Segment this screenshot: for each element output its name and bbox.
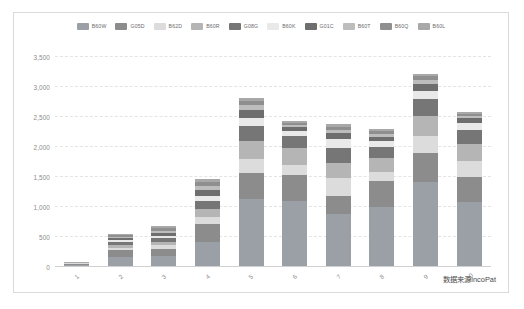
bar-segment-b60w[interactable] <box>151 256 176 266</box>
stacked-bar[interactable] <box>413 74 438 266</box>
stacked-bar[interactable] <box>64 262 89 266</box>
stacked-bar[interactable] <box>457 112 482 266</box>
legend-item-b62d[interactable]: B62D <box>154 23 183 30</box>
bar-segment-b62d[interactable] <box>413 136 438 153</box>
bar-segment-b60k[interactable] <box>413 91 438 99</box>
bar-segment-g05d[interactable] <box>457 177 482 202</box>
y-axis-tick-label: 3,500 <box>34 54 51 61</box>
bar-column: 3 <box>142 56 186 266</box>
bar-group: 12345678910 <box>55 56 491 266</box>
bar-segment-b60r[interactable] <box>413 116 438 136</box>
bar-segment-b60w[interactable] <box>108 257 133 266</box>
bar-segment-b60r[interactable] <box>282 148 307 165</box>
legend-item-b60k[interactable]: B60K <box>267 23 295 30</box>
stacked-bar[interactable] <box>282 121 307 266</box>
x-axis-tick-label: 8 <box>378 273 385 281</box>
legend-item-g05d[interactable]: G05D <box>115 23 144 30</box>
bar-segment-b60r[interactable] <box>195 209 220 217</box>
stacked-bar[interactable] <box>151 226 176 266</box>
legend-item-label: B62D <box>169 23 183 30</box>
bar-segment-b62d[interactable] <box>457 161 482 177</box>
legend-swatch-icon <box>229 23 241 30</box>
bar-segment-g01c[interactable] <box>413 84 438 91</box>
stacked-bar[interactable] <box>326 124 351 266</box>
bar-segment-g08g[interactable] <box>282 136 307 148</box>
legend-item-b60l[interactable]: B60L <box>418 23 446 30</box>
x-axis-tick-label: 4 <box>204 273 211 281</box>
bar-segment-g05d[interactable] <box>239 173 264 199</box>
legend-swatch-icon <box>305 23 317 30</box>
bar-segment-g08g[interactable] <box>413 99 438 116</box>
legend-swatch-icon <box>343 23 355 30</box>
legend-item-label: B60K <box>282 23 295 30</box>
bar-segment-b60w[interactable] <box>282 201 307 266</box>
bar-segment-b60k[interactable] <box>326 139 351 149</box>
bar-segment-g05d[interactable] <box>108 250 133 257</box>
stacked-bar[interactable] <box>195 179 220 266</box>
legend-item-label: B60L <box>433 23 446 30</box>
bar-segment-g05d[interactable] <box>369 181 394 207</box>
bar-segment-b62d[interactable] <box>239 159 264 173</box>
bar-column: 8 <box>360 56 404 266</box>
legend-swatch-icon <box>267 23 279 30</box>
bar-segment-b60w[interactable] <box>413 182 438 266</box>
source-annotation: 数据来源incoPat <box>443 273 496 284</box>
bar-segment-g08g[interactable] <box>239 126 264 141</box>
legend-item-b60w[interactable]: B60W <box>77 23 107 30</box>
legend-item-label: G01C <box>320 23 334 30</box>
bar-segment-g01c[interactable] <box>239 110 264 118</box>
bar-segment-g08g[interactable] <box>326 148 351 162</box>
bar-segment-g08g[interactable] <box>457 130 482 144</box>
y-axis-tick-label: 1,000 <box>34 204 51 211</box>
bar-segment-g05d[interactable] <box>326 196 351 214</box>
x-axis-tick-label: 7 <box>335 273 342 281</box>
legend-item-b60t[interactable]: B60T <box>343 23 371 30</box>
bar-column: 2 <box>99 56 143 266</box>
legend-item-label: G05D <box>130 23 144 30</box>
bar-segment-b62d[interactable] <box>195 217 220 224</box>
bar-segment-b62d[interactable] <box>326 178 351 196</box>
bar-segment-b60w[interactable] <box>195 242 220 266</box>
y-axis-tick-label: 0 <box>46 264 50 271</box>
bar-segment-b60w[interactable] <box>369 207 394 266</box>
bar-segment-g05d[interactable] <box>151 249 176 256</box>
bar-segment-g05d[interactable] <box>282 175 307 201</box>
bar-segment-b60k[interactable] <box>239 118 264 126</box>
legend-item-b60r[interactable]: B60R <box>191 23 220 30</box>
bar-segment-g08g[interactable] <box>369 147 394 158</box>
bar-segment-b60k[interactable] <box>457 123 482 130</box>
bar-segment-b60w[interactable] <box>457 202 482 266</box>
bar-segment-g05d[interactable] <box>195 224 220 242</box>
bar-segment-b60w[interactable] <box>239 199 264 266</box>
bar-segment-b60w[interactable] <box>64 265 89 266</box>
bar-segment-b62d[interactable] <box>282 165 307 175</box>
legend-swatch-icon <box>418 23 430 30</box>
bar-segment-b60r[interactable] <box>239 141 264 159</box>
plot-area: 05001,0001,5002,0002,5003,0003,500 12345… <box>55 56 491 266</box>
bar-column: 7 <box>317 56 361 266</box>
legend-item-g08g[interactable]: G08G <box>229 23 258 30</box>
x-axis-tick-label: 5 <box>248 273 255 281</box>
y-axis-tick-label: 500 <box>39 234 50 241</box>
x-axis-tick-label: 3 <box>160 273 167 281</box>
legend-item-label: B60W <box>92 23 107 30</box>
legend-item-label: B60T <box>358 23 371 30</box>
bar-segment-g08g[interactable] <box>195 201 220 209</box>
stacked-bar[interactable] <box>369 129 394 266</box>
bar-segment-g05d[interactable] <box>413 153 438 182</box>
y-axis-tick-label: 2,000 <box>34 144 51 151</box>
stacked-bar[interactable] <box>108 234 133 266</box>
x-axis-tick-label: 9 <box>422 273 429 281</box>
bar-segment-b60r[interactable] <box>326 163 351 179</box>
legend-item-g01c[interactable]: G01C <box>305 23 334 30</box>
bar-segment-b60r[interactable] <box>457 144 482 161</box>
x-axis-tick-label: 1 <box>73 273 80 281</box>
bar-segment-b62d[interactable] <box>369 172 394 181</box>
chart-page: B60WG05DB62DB60RG08GB60KG01CB60TB60QB60L… <box>0 0 524 309</box>
stacked-bar[interactable] <box>239 98 264 266</box>
legend-item-b60q[interactable]: B60Q <box>380 23 409 30</box>
legend-swatch-icon <box>115 23 127 30</box>
bar-segment-b60r[interactable] <box>369 158 394 172</box>
legend-item-label: B60Q <box>395 23 409 30</box>
bar-segment-b60w[interactable] <box>326 214 351 266</box>
